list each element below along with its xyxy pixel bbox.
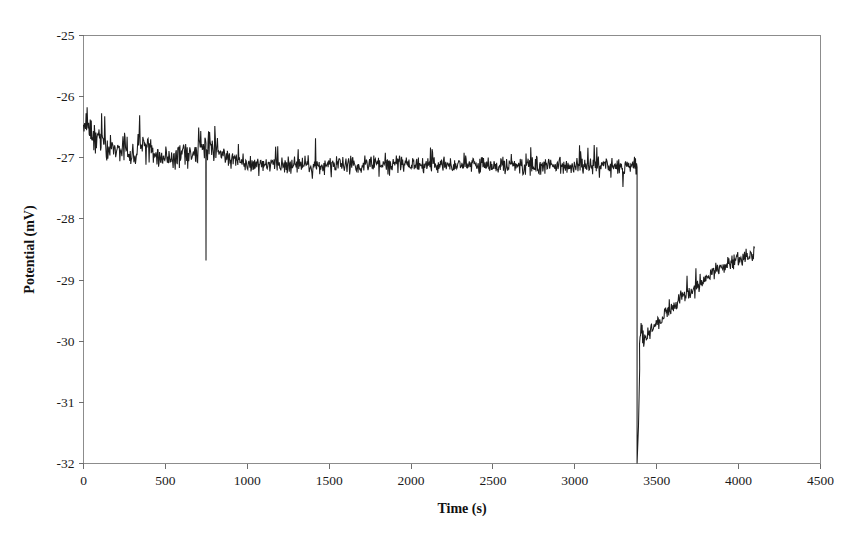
x-tick-label: 1000 — [234, 473, 261, 488]
x-tick-label: 2500 — [479, 473, 506, 488]
y-tick-label: -27 — [57, 150, 75, 165]
x-tick-label: 0 — [80, 473, 87, 488]
y-tick-label: -28 — [57, 211, 75, 226]
x-tick-label: 3500 — [643, 473, 670, 488]
y-tick-label: -30 — [57, 334, 75, 349]
y-tick-label: -31 — [57, 395, 75, 410]
x-axis-title: Time (s) — [437, 501, 486, 517]
potential-trace — [84, 107, 755, 463]
x-tick-label: 4500 — [807, 473, 834, 488]
x-tick-label: 4000 — [725, 473, 752, 488]
y-axis-title: Potential (mV) — [22, 205, 38, 294]
plot-border — [84, 36, 821, 464]
y-axis-ticks: -25-26-27-28-29-30-31-32 — [57, 28, 84, 471]
y-tick-label: -29 — [57, 273, 75, 288]
y-tick-label: -32 — [57, 456, 75, 471]
data-series-group — [84, 107, 755, 463]
y-tick-label: -26 — [57, 89, 75, 104]
x-tick-label: 2000 — [398, 473, 425, 488]
potential-vs-time-chart: -25-26-27-28-29-30-31-32 050010001500200… — [0, 0, 867, 538]
x-tick-label: 1500 — [316, 473, 343, 488]
figure-container: -25-26-27-28-29-30-31-32 050010001500200… — [0, 0, 867, 538]
y-tick-label: -25 — [57, 28, 75, 43]
x-tick-label: 500 — [155, 473, 176, 488]
x-tick-label: 3000 — [561, 473, 588, 488]
plot-frame — [84, 36, 821, 464]
x-axis-ticks: 050010001500200025003000350040004500 — [80, 464, 834, 488]
